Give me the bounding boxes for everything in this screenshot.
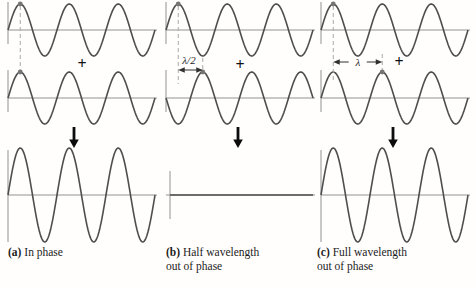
caption-b-text: Half wavelength (183, 246, 259, 258)
caption-a-tag: (a) (8, 246, 21, 258)
down-arrow-icon (69, 127, 79, 148)
peak-dot (331, 2, 336, 7)
caption-c-text: Full wavelength (333, 246, 407, 258)
caption-b-text-line2: out of phase (166, 260, 316, 274)
caption-c-tag: (c) (317, 246, 330, 258)
plus-icon: + (77, 55, 86, 73)
caption-a-text: In phase (24, 246, 63, 258)
caption-a: (a) In phase (8, 246, 158, 260)
peak-dot (18, 2, 23, 7)
down-arrow-icon (388, 127, 398, 148)
plus-icon: + (394, 53, 403, 71)
down-arrow-icon (233, 127, 243, 148)
peak-dot (18, 70, 23, 75)
caption-c: (c) Full wavelengthout of phase (317, 246, 467, 273)
wave-interference-figure: + + + λ/2 λ (a) In phase (b) Half wavele… (0, 0, 476, 288)
caption-b: (b) Half wavelengthout of phase (166, 246, 316, 273)
caption-c-text-line2: out of phase (317, 260, 467, 274)
peak-dot (176, 2, 181, 7)
lambda-half-label: λ/2 (182, 54, 195, 66)
caption-b-tag: (b) (166, 246, 180, 258)
lambda-label: λ (356, 56, 361, 68)
plus-icon: + (235, 56, 244, 74)
diagram-canvas (0, 0, 476, 288)
peak-dot (380, 70, 385, 75)
